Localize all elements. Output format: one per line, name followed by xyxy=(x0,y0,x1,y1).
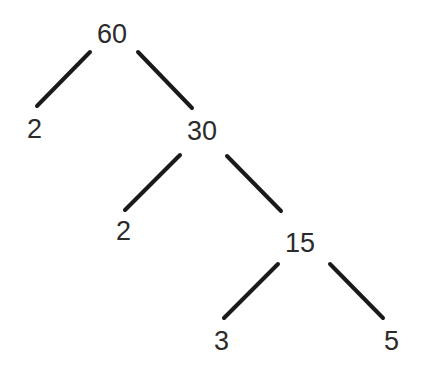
edge-30-to-2 xyxy=(125,155,180,210)
edge-15-to-3 xyxy=(224,264,278,318)
node-60: 60 xyxy=(97,21,127,48)
node-30: 30 xyxy=(187,118,217,145)
node-2-left: 2 xyxy=(27,116,42,143)
edge-60-to-2 xyxy=(37,52,90,106)
edge-60-to-30 xyxy=(138,52,192,108)
node-5: 5 xyxy=(384,328,399,355)
edge-30-to-15 xyxy=(227,156,281,211)
node-15: 15 xyxy=(285,230,315,257)
tree-edges xyxy=(0,0,421,366)
node-3: 3 xyxy=(214,328,229,355)
factor-tree-diagram: 60 2 30 2 15 3 5 xyxy=(0,0,421,366)
edge-15-to-5 xyxy=(330,264,383,318)
node-2-middle: 2 xyxy=(116,218,131,245)
